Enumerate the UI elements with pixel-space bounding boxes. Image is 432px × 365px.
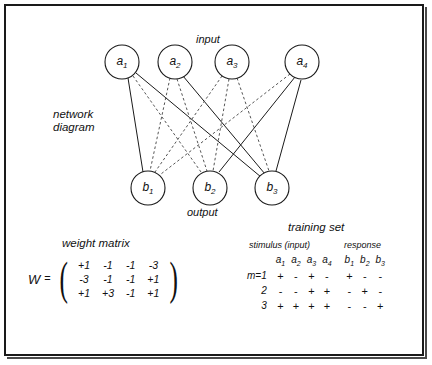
cell-response: -	[357, 298, 372, 313]
cell-gap	[335, 298, 342, 313]
cell-response: +	[357, 283, 372, 298]
node-a3-label: a3	[226, 54, 237, 70]
cell-stimulus: +	[319, 283, 334, 298]
edge-a1-b3	[136, 73, 261, 177]
cell-stimulus: -	[319, 268, 334, 283]
row-label: m=1	[244, 268, 273, 283]
cell-stimulus: +	[304, 283, 319, 298]
header-a4: a4	[319, 252, 334, 268]
node-b3-label: b3	[266, 180, 277, 196]
cell-response: -	[342, 298, 357, 313]
cell-response: -	[342, 283, 357, 298]
matrix-cell: +1	[72, 286, 96, 300]
matrix-cell: +1	[72, 258, 96, 272]
training-set-header-row: a1 a2 a3 a4 b1 b2 b3	[244, 252, 388, 268]
network-diagram-caption-line2: diagram	[53, 121, 95, 134]
node-b3-index: 3	[273, 187, 277, 196]
node-a2-index: 2	[176, 61, 180, 70]
cell-stimulus: -	[288, 283, 303, 298]
cell-stimulus: +	[288, 298, 303, 313]
cell-stimulus: +	[273, 298, 288, 313]
response-caption: response	[344, 240, 381, 250]
header-b2: b2	[357, 252, 372, 268]
edge-a2-b1	[150, 78, 170, 171]
matrix-cell: -1	[96, 272, 120, 286]
header-b3: b3	[373, 252, 388, 268]
header-b1: b1	[342, 252, 357, 268]
node-b2-index: 2	[211, 187, 215, 196]
header-b1-index: 1	[350, 260, 354, 267]
training-set-table: a1 a2 a3 a4 b1 b2 b3 m=1 + - + - + - -	[244, 252, 388, 313]
node-a3-letter: a	[226, 54, 233, 68]
header-a3: a3	[304, 252, 319, 268]
edge-a2-b3	[183, 76, 265, 174]
header-a2-index: 2	[297, 260, 301, 267]
cell-response: +	[373, 298, 388, 313]
edge-a3-b3	[237, 78, 269, 171]
cell-stimulus: +	[304, 298, 319, 313]
node-b2-label: b2	[204, 180, 215, 196]
node-a1-index: 1	[123, 61, 127, 70]
node-a2-letter: a	[169, 54, 176, 68]
matrix-row: -3 -1 -1 +1	[72, 272, 165, 286]
cell-gap	[335, 283, 342, 298]
edge-a1-b1	[128, 78, 143, 172]
header-b3-index: 3	[381, 260, 385, 267]
input-caption: input	[196, 33, 220, 45]
node-a2-label: a2	[169, 54, 180, 70]
matrix-cell: +3	[96, 286, 120, 300]
header-a3-index: 3	[312, 260, 316, 267]
node-b1-letter: b	[142, 180, 149, 194]
matrix-cell: -3	[141, 258, 165, 272]
matrix-cell: -3	[72, 272, 96, 286]
node-b3-letter: b	[266, 180, 273, 194]
table-row: m=1 + - + - + - -	[244, 268, 388, 283]
matrix-cell: -1	[96, 258, 120, 272]
node-a4-label: a4	[296, 54, 307, 70]
weight-matrix-block: W = ( +1 -1 -1 -3 -3 -1 -1 +1 +1 +3	[28, 258, 182, 300]
training-set-corner	[244, 252, 273, 268]
node-a1-label: a1	[116, 54, 127, 70]
row-label: 3	[244, 298, 273, 313]
cell-response: -	[357, 268, 372, 283]
node-b2-letter: b	[204, 180, 211, 194]
edge-a2-b2	[177, 79, 207, 171]
header-a2: a2	[288, 252, 303, 268]
header-a4-index: 4	[328, 260, 332, 267]
header-b2-index: 2	[366, 260, 370, 267]
training-set-caption: training set	[288, 221, 344, 233]
cell-gap	[335, 268, 342, 283]
weight-matrix-table: +1 -1 -1 -3 -3 -1 -1 +1 +1 +3 -1 +1	[72, 258, 165, 300]
header-a1: a1	[273, 252, 288, 268]
table-row: 2 - - + + - + -	[244, 283, 388, 298]
network-diagram-caption-line1: network	[53, 108, 95, 121]
figure-canvas: a1 a2 a3 a4 b1 b2 b3 input output networ…	[0, 0, 432, 365]
cell-stimulus: -	[273, 283, 288, 298]
row-label: 2	[244, 283, 273, 298]
cell-stimulus: +	[304, 268, 319, 283]
weight-matrix-equals: =	[44, 272, 50, 284]
node-a3-index: 3	[233, 61, 237, 70]
cell-response: +	[342, 268, 357, 283]
matrix-cell: -1	[120, 258, 141, 272]
matrix-cell: -1	[120, 272, 141, 286]
training-set-column-gap	[335, 252, 342, 268]
edge-a3-b2	[213, 79, 229, 171]
node-b1-label: b1	[142, 180, 153, 196]
cell-response: -	[373, 268, 388, 283]
network-diagram-caption: network diagram	[53, 108, 95, 134]
edge-a4-b2	[219, 77, 295, 172]
node-b1-index: 1	[149, 187, 153, 196]
edge-a3-b1	[155, 76, 222, 172]
node-a1-letter: a	[116, 54, 123, 68]
cell-stimulus: -	[288, 268, 303, 283]
output-caption: output	[187, 206, 218, 218]
matrix-cell: +1	[141, 272, 165, 286]
node-a4-index: 4	[303, 61, 307, 70]
edge-a4-b3	[276, 80, 301, 171]
cell-stimulus: +	[273, 268, 288, 283]
node-a4-letter: a	[296, 54, 303, 68]
matrix-row: +1 +3 -1 +1	[72, 286, 165, 300]
table-row: 3 + + + + - - +	[244, 298, 388, 313]
matrix-row: +1 -1 -1 -3	[72, 258, 165, 272]
